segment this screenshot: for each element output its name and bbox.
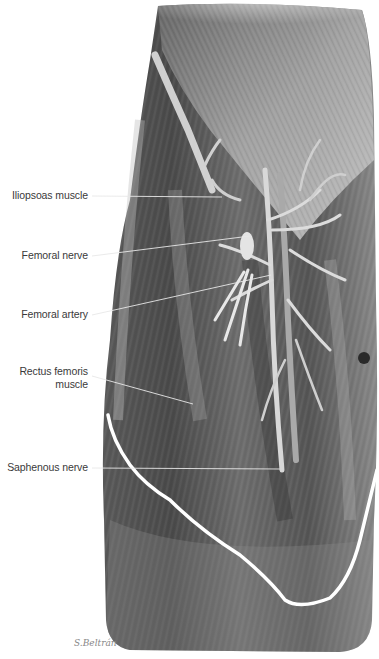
artist-signature: S.Beltrán	[74, 638, 117, 648]
label-rectus-femoris-line2: muscle	[19, 378, 88, 391]
thigh-anatomy-illustration	[0, 0, 379, 659]
label-femoral-nerve: Femoral nerve	[22, 249, 88, 262]
label-rectus-femoris-muscle: Rectus femoris muscle	[19, 365, 88, 391]
label-rectus-femoris-line1: Rectus femoris	[19, 365, 88, 378]
label-femoral-artery: Femoral artery	[21, 308, 88, 321]
label-iliopsoas-muscle: Iliopsoas muscle	[12, 189, 88, 202]
label-saphenous-nerve: Saphenous nerve	[7, 461, 88, 474]
